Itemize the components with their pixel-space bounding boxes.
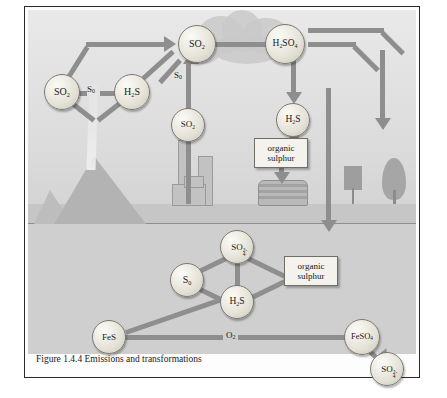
figure-canvas: SO2 S0 H2S SO2 S0 H2SO4 SO2 H2S organic … bbox=[26, 8, 418, 376]
box-organic-sulphur-upper[interactable]: organic sulphur bbox=[254, 138, 308, 168]
edge-h2so4-right-a bbox=[308, 42, 356, 47]
organic-label: organic bbox=[298, 261, 325, 271]
so4-sup: 2- bbox=[243, 248, 248, 253]
o2-sub: 2 bbox=[233, 334, 236, 340]
h2s-s: S bbox=[239, 296, 244, 306]
figure-caption: Figure 1.4.4 Emissions and transformatio… bbox=[36, 354, 202, 364]
so4-so: SO bbox=[231, 242, 243, 252]
node-h2so4-top[interactable]: H2SO4 bbox=[265, 24, 305, 64]
label-so2-sub: 2 bbox=[192, 123, 195, 129]
label-s0-left: S0 bbox=[87, 84, 95, 94]
h2s-s: S bbox=[134, 86, 140, 97]
node-feso4[interactable]: FeSO4 bbox=[344, 319, 380, 355]
so4-so: SO bbox=[381, 364, 393, 374]
volcano bbox=[54, 156, 146, 224]
box-organic-sulphur-lower[interactable]: organic sulphur bbox=[284, 256, 338, 286]
label-so2: SO bbox=[181, 119, 193, 129]
edge-h2so4-right-a-drop bbox=[326, 88, 331, 228]
sulphur-label: sulphur bbox=[268, 153, 295, 163]
node-so4-bottom[interactable]: SO42- bbox=[370, 352, 404, 386]
s0-sub: 0 bbox=[188, 278, 191, 285]
node-so2-stack[interactable]: SO2 bbox=[171, 108, 205, 142]
stack-riser bbox=[186, 138, 191, 204]
edge-so4-h2ssoil bbox=[235, 260, 240, 288]
s0-sub: 0 bbox=[179, 74, 182, 80]
node-h2s-right[interactable]: H2S bbox=[276, 103, 310, 137]
node-fes[interactable]: FeS bbox=[92, 320, 126, 354]
edge-so2top-h2so4 bbox=[212, 42, 266, 47]
conifer-tree bbox=[344, 166, 362, 204]
feso4-label: FeSO bbox=[351, 331, 370, 341]
edge-h2so4-right-b-drop bbox=[380, 50, 385, 124]
h2s-s: S bbox=[295, 114, 300, 124]
label-so2-sub: 2 bbox=[67, 90, 70, 97]
node-so2-left[interactable]: SO2 bbox=[44, 74, 80, 110]
node-so4-soil[interactable]: SO42- bbox=[220, 230, 254, 264]
label-so2: SO bbox=[189, 38, 202, 49]
arrowhead-down bbox=[274, 172, 290, 184]
label-o2: O2 bbox=[223, 330, 238, 340]
arrowhead-down bbox=[375, 118, 391, 130]
edge-so2left-top bbox=[86, 42, 166, 47]
edge-h2so4-right-b bbox=[308, 28, 384, 33]
label-so2: SO bbox=[54, 86, 67, 97]
node-h2s-left[interactable]: H2S bbox=[114, 74, 150, 110]
label-so2-sub: 2 bbox=[202, 42, 205, 49]
node-h2s-soil[interactable]: H2S bbox=[220, 285, 254, 319]
h2so4-so: SO bbox=[282, 38, 294, 48]
so4-sup: 2- bbox=[393, 370, 398, 375]
sulphur-label: sulphur bbox=[298, 271, 325, 281]
h2so4-sub2: 4 bbox=[295, 42, 298, 48]
node-so2-top[interactable]: SO2 bbox=[178, 25, 216, 63]
fes-label: FeS bbox=[102, 333, 116, 342]
edge-h2so4-h2s bbox=[291, 58, 296, 96]
deciduous-tree bbox=[382, 158, 406, 204]
s0-sub: 0 bbox=[92, 88, 95, 94]
label-s0-mid: S0 bbox=[174, 70, 182, 80]
feso4-sub: 4 bbox=[370, 336, 373, 342]
organic-label: organic bbox=[268, 143, 295, 153]
node-s0-soil[interactable]: S0 bbox=[170, 263, 204, 297]
arrowhead-down bbox=[321, 220, 337, 232]
